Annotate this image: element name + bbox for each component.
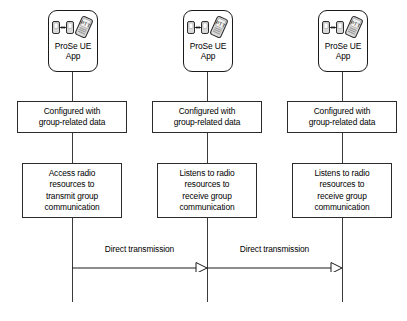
process-box-text: Configured with group-related data (171, 106, 244, 128)
process-box-configured-1[interactable]: Configured with group-related data (17, 101, 127, 133)
actor-label: ProSe UE App (55, 41, 91, 62)
actor-label: ProSe UE App (325, 41, 361, 62)
process-box-text: Configured with group-related data (306, 106, 379, 128)
actor-head-1[interactable]: PTT ProSe UE App (48, 10, 98, 72)
process-box-text: Access radio resources to transmit group… (41, 168, 102, 213)
process-box-text: Listens to radio resources to receive gr… (311, 168, 372, 213)
prose-ue-app-icon: PTT (50, 14, 96, 40)
message-arrow-2 (207, 258, 343, 272)
process-box-text: Listens to radio resources to receive gr… (176, 168, 237, 213)
prose-ue-app-icon: PTT (185, 14, 231, 40)
message-arrow-1 (72, 258, 208, 272)
message-label-2: Direct transmission (207, 244, 342, 254)
sequence-diagram: PTT ProSe UE App PT (0, 0, 407, 321)
process-box-text: Configured with group-related data (36, 106, 109, 128)
message-label-1: Direct transmission (72, 244, 207, 254)
process-box-radio-3[interactable]: Listens to radio resources to receive gr… (292, 163, 392, 218)
actor-head-3[interactable]: PTT ProSe UE App (318, 10, 368, 72)
actor-head-2[interactable]: PTT ProSe UE App (183, 10, 233, 72)
process-box-configured-2[interactable]: Configured with group-related data (152, 101, 262, 133)
actor-label: ProSe UE App (190, 41, 226, 62)
process-box-radio-2[interactable]: Listens to radio resources to receive gr… (157, 163, 257, 218)
process-box-radio-1[interactable]: Access radio resources to transmit group… (22, 163, 122, 218)
process-box-configured-3[interactable]: Configured with group-related data (287, 101, 397, 133)
prose-ue-app-icon: PTT (320, 14, 366, 40)
